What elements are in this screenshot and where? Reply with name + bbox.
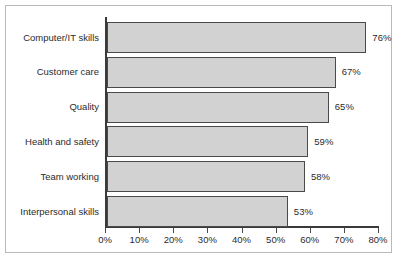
category-label: Team working [40, 172, 99, 182]
tick-label: 0% [98, 235, 112, 245]
tick-label: 60% [300, 235, 319, 245]
tick-label: 50% [266, 235, 285, 245]
tick-mark [310, 228, 311, 233]
tick-label: 80% [368, 235, 387, 245]
bar [107, 22, 366, 53]
category-label: Computer/IT skills [23, 33, 99, 43]
category-label: Health and safety [25, 137, 99, 147]
category-label: Interpersonal skills [20, 207, 99, 217]
bar-value-label: 65% [335, 102, 354, 112]
bar [107, 161, 305, 192]
bar-value-label: 58% [311, 172, 330, 182]
tick-label: 20% [164, 235, 183, 245]
category-label: Quality [69, 102, 99, 112]
tick-mark [344, 228, 345, 233]
bar-value-label: 59% [314, 137, 333, 147]
tick-mark [173, 228, 174, 233]
bar-value-label: 67% [342, 68, 361, 78]
category-label: Customer care [37, 67, 99, 77]
tick-mark [378, 228, 379, 233]
bar [107, 92, 329, 123]
bar [107, 57, 336, 88]
bar-value-label: 76% [372, 33, 391, 43]
bar [107, 196, 288, 227]
tick-mark [276, 228, 277, 233]
tick-mark [242, 228, 243, 233]
category-axis-labels: Computer/IT skillsCustomer careQualityHe… [6, 17, 99, 232]
tick-mark [207, 228, 208, 233]
tick-label: 40% [232, 235, 251, 245]
plot-area: 76%67%65%59%58%53% 0%10%20%30%40%50%60%7… [105, 17, 384, 232]
tick-mark [139, 228, 140, 233]
tick-label: 30% [198, 235, 217, 245]
tick-label: 10% [130, 235, 149, 245]
bar [107, 126, 308, 157]
chart-figure: Computer/IT skillsCustomer careQualityHe… [5, 5, 392, 253]
tick-label: 70% [334, 235, 353, 245]
bar-value-label: 53% [294, 207, 313, 217]
tick-mark [105, 228, 106, 233]
